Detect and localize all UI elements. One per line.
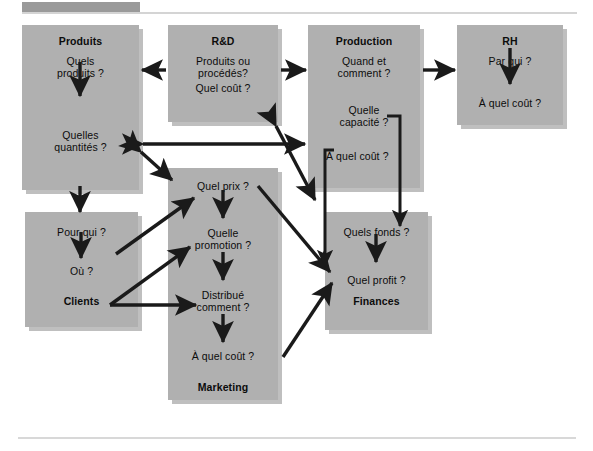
arrow-capacite-to-finances — [387, 116, 400, 226]
arrow-rd-finances-bidirectional — [276, 126, 315, 200]
arrow-clients-to-quel-prix — [116, 198, 194, 254]
diagram-page: Produits Quels produits ? Quelles quanti… — [0, 0, 593, 451]
arrow-marketing-cout-to-finances — [283, 283, 332, 357]
arrow-cout-to-finances — [325, 150, 334, 266]
connector-layer — [0, 0, 593, 451]
arrow-clients-to-promotion — [110, 247, 190, 305]
arrow-produits-marketing-bidirectional — [141, 152, 172, 180]
arrow-quel-prix-to-finances — [258, 186, 330, 272]
